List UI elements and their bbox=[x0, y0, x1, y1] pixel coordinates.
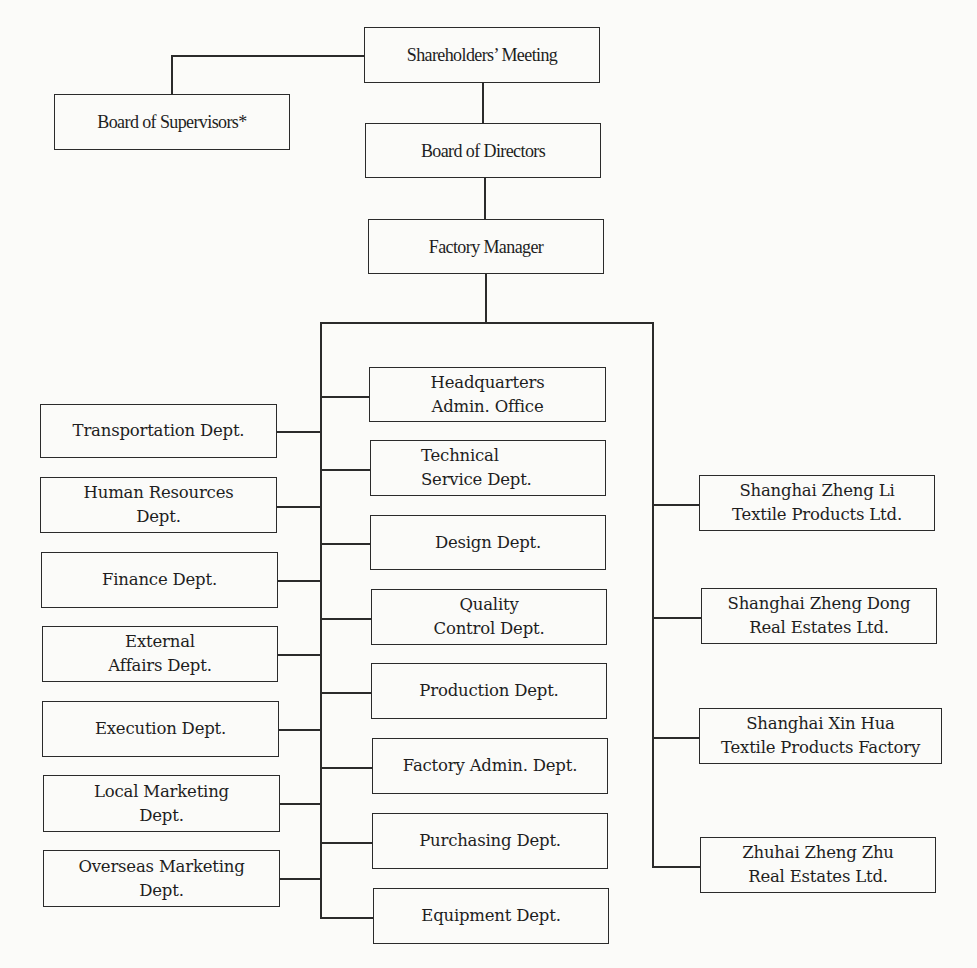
node-design-dept: Design Dept. bbox=[370, 515, 606, 570]
node-transportation-dept: Transportation Dept. bbox=[40, 404, 277, 458]
stub-left-3 bbox=[277, 654, 321, 656]
node-local-marketing-dept: Local Marketing Dept. bbox=[43, 775, 280, 832]
connector-manager-bracket bbox=[485, 273, 487, 323]
stub-center-3 bbox=[321, 618, 371, 620]
stub-right-0 bbox=[653, 504, 700, 506]
connector-directors-manager bbox=[484, 177, 486, 220]
node-production-dept: Production Dept. bbox=[371, 663, 607, 719]
stub-center-5 bbox=[321, 767, 372, 769]
node-shanghai-xin-hua: Shanghai Xin Hua Textile Products Factor… bbox=[699, 708, 942, 764]
bracket-top bbox=[320, 322, 653, 324]
stub-center-7 bbox=[321, 917, 373, 919]
node-finance-dept: Finance Dept. bbox=[41, 552, 278, 608]
node-board-of-supervisors: Board of Supervisors* bbox=[54, 94, 290, 150]
stub-center-4 bbox=[321, 692, 372, 694]
node-shareholders-meeting: Shareholders’ Meeting bbox=[364, 27, 600, 83]
stub-center-2 bbox=[321, 543, 371, 545]
connector-shareholders-supervisors-v bbox=[171, 55, 173, 95]
node-board-of-directors: Board of Directors bbox=[365, 123, 601, 178]
connector-shareholders-supervisors-h bbox=[171, 55, 364, 57]
node-shanghai-zheng-li: Shanghai Zheng Li Textile Products Ltd. bbox=[699, 475, 935, 531]
node-zhuhai-zheng-zhu: Zhuhai Zheng Zhu Real Estates Ltd. bbox=[700, 837, 936, 893]
node-human-resources-dept: Human Resources Dept. bbox=[40, 477, 277, 533]
node-quality-control-dept: Quality Control Dept. bbox=[371, 589, 607, 645]
stub-right-1 bbox=[653, 617, 702, 619]
stub-center-0 bbox=[321, 396, 370, 398]
node-execution-dept: Execution Dept. bbox=[42, 701, 279, 757]
stub-right-2 bbox=[653, 737, 700, 739]
node-headquarters-admin-office: Headquarters Admin. Office bbox=[369, 367, 606, 422]
stub-center-1 bbox=[321, 469, 370, 471]
node-factory-manager: Factory Manager bbox=[368, 219, 604, 274]
node-shanghai-zheng-dong: Shanghai Zheng Dong Real Estates Ltd. bbox=[701, 588, 937, 644]
node-technical-service-dept: Technical Service Dept. bbox=[370, 440, 606, 496]
node-external-affairs-dept: External Affairs Dept. bbox=[42, 626, 278, 682]
node-purchasing-dept: Purchasing Dept. bbox=[372, 813, 608, 869]
stub-left-5 bbox=[278, 803, 321, 805]
stub-right-3 bbox=[653, 866, 701, 868]
stub-left-0 bbox=[276, 431, 321, 433]
stub-left-2 bbox=[277, 580, 321, 582]
stub-left-4 bbox=[278, 729, 321, 731]
left-spine bbox=[320, 322, 322, 919]
stub-left-6 bbox=[279, 878, 321, 880]
node-factory-admin-dept: Factory Admin. Dept. bbox=[372, 738, 608, 794]
node-overseas-marketing-dept: Overseas Marketing Dept. bbox=[43, 850, 280, 907]
connector-shareholders-directors bbox=[482, 82, 484, 124]
node-equipment-dept: Equipment Dept. bbox=[373, 888, 609, 944]
stub-center-6 bbox=[321, 842, 373, 844]
right-spine bbox=[652, 322, 654, 868]
stub-left-1 bbox=[276, 506, 321, 508]
